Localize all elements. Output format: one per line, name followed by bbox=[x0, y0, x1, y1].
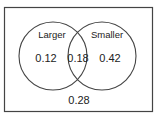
larger-only-value: 0.12 bbox=[35, 52, 56, 64]
larger-set-label: Larger bbox=[38, 29, 65, 40]
intersection-value: 0.18 bbox=[67, 52, 88, 64]
venn-diagram: Larger Smaller 0.12 0.18 0.42 0.28 bbox=[0, 0, 157, 117]
outside-value: 0.28 bbox=[68, 94, 89, 106]
smaller-set-label: Smaller bbox=[91, 29, 123, 40]
smaller-only-value: 0.42 bbox=[99, 52, 120, 64]
